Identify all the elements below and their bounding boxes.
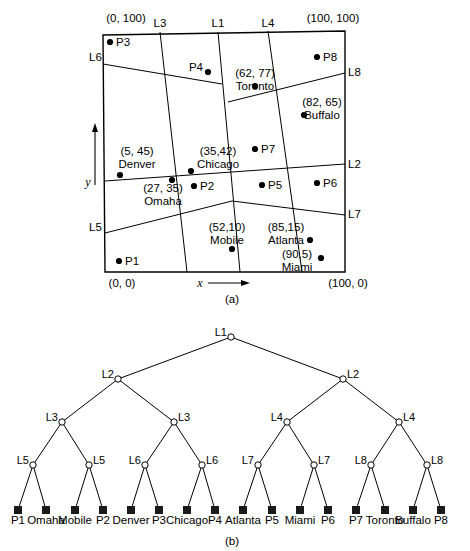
map-point-buffalo: (82, 65)Buffalo bbox=[301, 96, 342, 121]
map-coord-label-chicago: (35,42) bbox=[200, 145, 237, 157]
map-city-label-atlanta: Atlanta bbox=[268, 234, 304, 246]
map-coord-label-denver: (5, 45) bbox=[120, 145, 153, 157]
partition-label-l8: L8 bbox=[348, 66, 361, 78]
tree-node-l3[interactable] bbox=[171, 419, 177, 425]
tree-node-l1-label: L1 bbox=[215, 326, 227, 338]
map-point-miami: (90,5)Miami bbox=[282, 248, 324, 273]
map-dot-p8 bbox=[314, 54, 320, 60]
tree-leaf-omaha[interactable] bbox=[42, 506, 50, 514]
tree-edge bbox=[62, 422, 89, 465]
map-point-omaha: (27, 35)Omaha bbox=[143, 177, 183, 207]
map-corner-top-right: (100, 100) bbox=[307, 12, 360, 24]
partition-line-l7 bbox=[232, 201, 345, 215]
map-dot-p3 bbox=[107, 39, 113, 45]
partition-label-l5: L5 bbox=[89, 221, 102, 233]
map-city-label-buffalo: Buffalo bbox=[304, 109, 340, 121]
map-point-mobile: (52,10)Mobile bbox=[209, 221, 246, 252]
tree-node-l1[interactable] bbox=[228, 334, 234, 340]
tree-leaf-p5[interactable] bbox=[268, 506, 276, 514]
partition-label-l2: L2 bbox=[348, 158, 361, 170]
map-point-chicago: (35,42)Chicago bbox=[188, 145, 239, 174]
partition-line-l3 bbox=[160, 32, 187, 272]
tree-node-l8[interactable] bbox=[424, 462, 430, 468]
tree-leaf-p4[interactable] bbox=[211, 506, 219, 514]
tree-edge bbox=[287, 379, 343, 422]
map-coord-label-mobile: (52,10) bbox=[209, 221, 246, 233]
tree-node-l7-label: L7 bbox=[318, 454, 330, 466]
tree-leaf-chicago-label: Chicago bbox=[166, 514, 208, 526]
y-axis-arrow-head bbox=[92, 123, 98, 132]
tree-edge bbox=[314, 465, 328, 510]
tree-leaf-p2[interactable] bbox=[99, 506, 107, 514]
tree-edge bbox=[258, 465, 272, 510]
tree-node-l5[interactable] bbox=[86, 462, 92, 468]
tree-edge bbox=[18, 465, 33, 510]
tree-leaf-p1-label: P1 bbox=[11, 514, 25, 526]
tree-node-l2[interactable] bbox=[340, 376, 346, 382]
partition-label-l6: L6 bbox=[89, 51, 102, 63]
map-point-label-p8: P8 bbox=[323, 51, 337, 63]
tree-node-l2[interactable] bbox=[115, 376, 121, 382]
tree-leaf-p6[interactable] bbox=[324, 506, 332, 514]
tree-edge bbox=[231, 337, 343, 379]
map-point-p2: P2 bbox=[191, 180, 214, 192]
tree-leaf-p3[interactable] bbox=[155, 506, 163, 514]
tree-node-l3[interactable] bbox=[59, 419, 65, 425]
tree-edge bbox=[287, 422, 314, 465]
map-point-denver: (5, 45)Denver bbox=[117, 145, 156, 178]
tree-edge bbox=[399, 422, 427, 465]
tree-leaf-p7[interactable] bbox=[352, 506, 360, 514]
tree-edge bbox=[356, 465, 371, 510]
tree-leaf-p8-label: P8 bbox=[434, 514, 448, 526]
tree-leaf-p5-label: P5 bbox=[265, 514, 279, 526]
tree-node-l8[interactable] bbox=[368, 462, 374, 468]
x-axis-arrow-head bbox=[241, 280, 250, 286]
partition-label-l7: L7 bbox=[348, 208, 361, 220]
tree-edge bbox=[33, 422, 62, 465]
tree-edge bbox=[174, 422, 202, 465]
map-dot-p7 bbox=[252, 146, 258, 152]
map-point-label-p1: P1 bbox=[125, 255, 139, 267]
tree-node-l4[interactable] bbox=[284, 419, 290, 425]
tree-edge bbox=[118, 379, 174, 422]
tree-node-l7-label: L7 bbox=[242, 454, 254, 466]
tree-leaf-p3-label: P3 bbox=[152, 514, 166, 526]
map-coord-label-miami: (90,5) bbox=[282, 248, 312, 260]
tree-leaf-atlanta[interactable] bbox=[239, 506, 247, 514]
tree-node-l8-label: L8 bbox=[431, 454, 443, 466]
tree-edge bbox=[118, 337, 231, 379]
tree-node-l7[interactable] bbox=[311, 462, 317, 468]
map-dot-p5 bbox=[259, 182, 265, 188]
map-dot-denver bbox=[117, 172, 123, 178]
figure-container: (0, 100)(100, 100)(0, 0)(100, 0)L3L1L4L6… bbox=[0, 0, 470, 551]
tree-leaf-chicago[interactable] bbox=[183, 506, 191, 514]
tree-edge bbox=[131, 465, 145, 510]
map-dot-atlanta bbox=[307, 237, 313, 243]
tree-node-l4-label: L4 bbox=[271, 411, 283, 423]
tree-node-l4[interactable] bbox=[396, 419, 402, 425]
tree-node-l6-label: L6 bbox=[129, 454, 141, 466]
map-point-p5: P5 bbox=[259, 179, 282, 191]
tree-leaf-p1[interactable] bbox=[14, 506, 22, 514]
tree-node-l6[interactable] bbox=[142, 462, 148, 468]
map-city-label-omaha: Omaha bbox=[144, 195, 182, 207]
tree-node-l6[interactable] bbox=[199, 462, 205, 468]
tree-leaf-p8[interactable] bbox=[437, 506, 445, 514]
map-city-label-toronto: Toronto bbox=[236, 80, 274, 92]
tree-node-l6-label: L6 bbox=[206, 454, 218, 466]
map-coord-label-toronto: (62, 77) bbox=[235, 67, 275, 79]
map-point-label-p2: P2 bbox=[200, 180, 214, 192]
tree-node-l7[interactable] bbox=[255, 462, 261, 468]
tree-node-l5[interactable] bbox=[30, 462, 36, 468]
tree-leaf-mobile[interactable] bbox=[71, 506, 79, 514]
tree-leaf-miami[interactable] bbox=[296, 506, 304, 514]
tree-edge bbox=[75, 465, 89, 510]
tree-leaf-toronto[interactable] bbox=[381, 506, 389, 514]
panel-b-label: (b) bbox=[225, 535, 239, 547]
map-dot-mobile bbox=[229, 246, 235, 252]
tree-leaf-denver[interactable] bbox=[127, 506, 135, 514]
map-city-label-chicago: Chicago bbox=[197, 158, 239, 170]
map-point-label-p7: P7 bbox=[261, 143, 275, 155]
tree-node-l5-label: L5 bbox=[17, 454, 29, 466]
tree-leaf-buffalo[interactable] bbox=[409, 506, 417, 514]
